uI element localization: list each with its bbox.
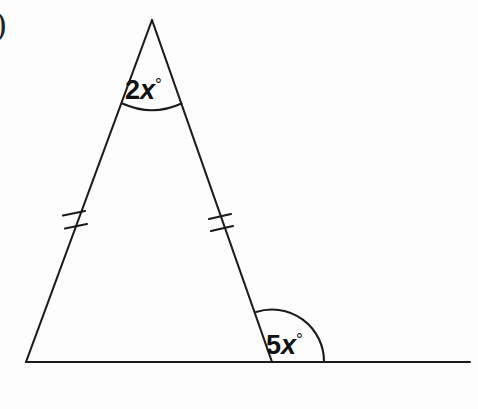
- apex-angle-variable: x: [138, 75, 156, 105]
- geometry-diagram: 2x° 5x° ): [0, 0, 478, 409]
- left-leg-line: [26, 20, 152, 362]
- item-marker-paren: ): [0, 5, 6, 43]
- left-side-ticks: [63, 211, 87, 229]
- apex-angle-degree-symbol: °: [155, 75, 162, 94]
- figure-canvas: 2x° 5x° ): [0, 0, 478, 409]
- exterior-angle-degree-symbol: °: [296, 330, 303, 349]
- apex-angle-coefficient: 2: [125, 75, 140, 105]
- right-side-ticks: [209, 214, 233, 231]
- exterior-angle-variable: x: [279, 330, 297, 360]
- apex-angle-label: 2x°: [125, 75, 162, 105]
- exterior-angle-coefficient: 5: [266, 330, 281, 360]
- exterior-angle-label: 5x°: [266, 330, 303, 360]
- right-leg-line: [152, 20, 272, 362]
